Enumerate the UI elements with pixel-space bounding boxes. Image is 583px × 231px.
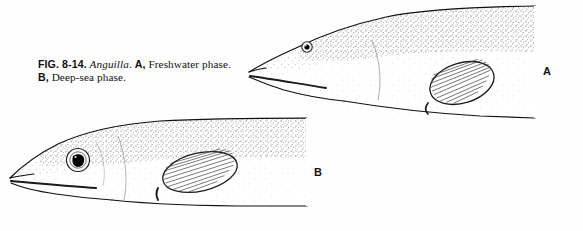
genus-period: . bbox=[129, 58, 132, 70]
caption-part-a-text: Freshwater phase. bbox=[146, 58, 231, 70]
figure-illustration: FIG. 8-14. Anguilla. A, Freshwater phase… bbox=[0, 0, 583, 231]
caption-part-a-letter: A, bbox=[135, 58, 146, 70]
specimen-b-drawing bbox=[0, 0, 583, 231]
figure-number: FIG. 8-14. bbox=[38, 58, 87, 70]
figure-caption: FIG. 8-14. Anguilla. A, Freshwater phase… bbox=[38, 58, 243, 84]
panel-label-a: A bbox=[543, 65, 551, 77]
caption-part-b-text: Deep-sea phase. bbox=[49, 71, 126, 83]
specimen-b-eye bbox=[67, 149, 90, 172]
genus-name: Anguilla bbox=[90, 58, 129, 70]
panel-label-b: B bbox=[314, 166, 322, 178]
caption-part-b-letter: B, bbox=[38, 71, 49, 83]
